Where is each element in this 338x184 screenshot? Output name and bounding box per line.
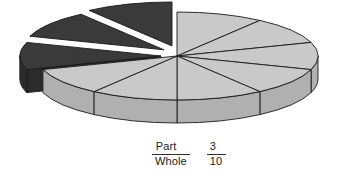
three-over-ten-fraction: 3 10 (207, 141, 226, 167)
fraction-denominator-value: 10 (207, 155, 226, 168)
fraction-numerator-part: Part (153, 141, 189, 154)
part-over-whole-fraction: Part Whole (152, 141, 190, 167)
fraction-denominator-whole: Whole (152, 155, 190, 168)
fraction-numerator-value: 3 (207, 141, 226, 154)
part-whole-fraction-label: Part Whole 3 10 (152, 141, 226, 167)
